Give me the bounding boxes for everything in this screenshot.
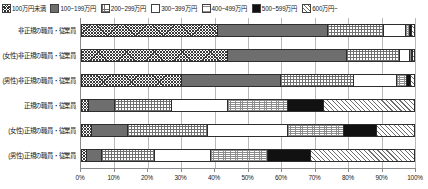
bar-segment[interactable] bbox=[82, 25, 218, 36]
stacked-bar[interactable] bbox=[81, 99, 415, 112]
legend-item-label: 600万円~ bbox=[312, 5, 337, 12]
legend-item[interactable]: 100~199万円 bbox=[50, 4, 95, 13]
bar-segment[interactable] bbox=[397, 75, 406, 86]
grid-swatch-icon bbox=[101, 4, 110, 13]
stacked-bar[interactable] bbox=[81, 24, 415, 37]
x-tick-label: 20% bbox=[141, 174, 153, 182]
stacked-bar[interactable] bbox=[81, 49, 415, 62]
bar-segment[interactable] bbox=[87, 150, 102, 161]
bar-segment[interactable] bbox=[115, 100, 171, 111]
bar-segment[interactable] bbox=[354, 75, 397, 86]
x-tick-label: 60% bbox=[275, 174, 287, 182]
legend-item-label: 100~199万円 bbox=[60, 5, 95, 12]
bar-segment[interactable] bbox=[347, 50, 400, 61]
bar-segment[interactable] bbox=[288, 125, 344, 136]
bar-row bbox=[81, 74, 415, 87]
x-tick-label: 50% bbox=[241, 174, 253, 182]
x-tick-label: 70% bbox=[308, 174, 320, 182]
axis-tick bbox=[181, 168, 182, 172]
bar-segment[interactable] bbox=[412, 25, 414, 36]
legend-item[interactable]: 600万円~ bbox=[302, 4, 337, 13]
axis-tick bbox=[80, 168, 81, 172]
category-label: (男性)非正規の職員・従業員 bbox=[3, 77, 76, 85]
bar-segment[interactable] bbox=[377, 125, 414, 136]
legend-item-label: 100万円未満 bbox=[12, 5, 45, 12]
crosshatch-swatch-icon bbox=[2, 4, 11, 13]
bar-segment[interactable] bbox=[281, 75, 354, 86]
bar-segment[interactable] bbox=[288, 100, 325, 111]
bar-segment[interactable] bbox=[82, 75, 182, 86]
bar-segment[interactable] bbox=[82, 125, 92, 136]
plot-area bbox=[80, 18, 415, 168]
bar-segment[interactable] bbox=[172, 100, 228, 111]
x-tick-label: 10% bbox=[107, 174, 119, 182]
x-tick-label: 0% bbox=[76, 174, 85, 182]
x-axis-ticks bbox=[80, 168, 415, 173]
category-axis-labels: 非正規の職員・従業員(女性)非正規の職員・従業員(男性)非正規の職員・従業員正規… bbox=[0, 18, 78, 168]
stacked-bar-chart: 100万円未満100~199万円200~299万円300~399万円400~49… bbox=[0, 0, 428, 189]
black-swatch-icon bbox=[252, 4, 261, 13]
stacked-bar[interactable] bbox=[81, 124, 415, 137]
bar-segment[interactable] bbox=[102, 150, 155, 161]
bar-segment[interactable] bbox=[182, 75, 282, 86]
axis-tick bbox=[315, 168, 316, 172]
white-swatch-icon bbox=[151, 4, 160, 13]
bar-segment[interactable] bbox=[82, 50, 228, 61]
bar-segment[interactable] bbox=[413, 50, 414, 61]
x-tick-label: 40% bbox=[208, 174, 220, 182]
solid-gray-swatch-icon bbox=[50, 4, 59, 13]
axis-tick bbox=[147, 168, 148, 172]
axis-tick bbox=[348, 168, 349, 172]
x-axis-tick-labels: 0%10%20%30%40%50%60%70%80%90%100% bbox=[0, 174, 428, 186]
x-tick-label: 100% bbox=[407, 174, 423, 182]
bar-segment[interactable] bbox=[324, 100, 414, 111]
bar-segment[interactable] bbox=[411, 75, 414, 86]
category-label: (男性)正規の職員・従業員 bbox=[8, 152, 76, 160]
bar-row bbox=[81, 24, 415, 37]
category-label: 正規の職員・従業員 bbox=[24, 102, 76, 110]
bar-row bbox=[81, 124, 415, 137]
bar-rows bbox=[81, 18, 415, 168]
bar-row bbox=[81, 49, 415, 62]
legend-item-label: 200~299万円 bbox=[111, 5, 146, 12]
axis-tick bbox=[248, 168, 249, 172]
bar-segment[interactable] bbox=[82, 100, 89, 111]
bar-segment[interactable] bbox=[89, 100, 116, 111]
bar-segment[interactable] bbox=[155, 150, 211, 161]
legend-item-label: 400~499万円 bbox=[212, 5, 247, 12]
bar-segment[interactable] bbox=[268, 150, 311, 161]
legend-item[interactable]: 200~299万円 bbox=[101, 4, 146, 13]
bar-segment[interactable] bbox=[384, 25, 406, 36]
axis-tick bbox=[214, 168, 215, 172]
axis-tick bbox=[114, 168, 115, 172]
bar-segment[interactable] bbox=[128, 125, 208, 136]
diagonal-swatch-icon bbox=[302, 4, 311, 13]
legend-item[interactable]: 100万円未満 bbox=[2, 4, 45, 13]
bar-segment[interactable] bbox=[92, 125, 129, 136]
axis-tick bbox=[281, 168, 282, 172]
bar-segment[interactable] bbox=[211, 150, 267, 161]
category-label: 非正規の職員・従業員 bbox=[18, 27, 76, 35]
bar-segment[interactable] bbox=[228, 50, 347, 61]
bar-segment[interactable] bbox=[328, 25, 384, 36]
axis-tick bbox=[382, 168, 383, 172]
legend-item-label: 500~599万円 bbox=[262, 5, 297, 12]
x-tick-label: 80% bbox=[342, 174, 354, 182]
bar-segment[interactable] bbox=[208, 125, 288, 136]
legend-item[interactable]: 500~599万円 bbox=[252, 4, 297, 13]
bar-segment[interactable] bbox=[228, 100, 288, 111]
gridline bbox=[415, 18, 416, 168]
dots-swatch-icon bbox=[202, 4, 211, 13]
bar-segment[interactable] bbox=[400, 50, 410, 61]
legend-item-label: 300~399万円 bbox=[161, 5, 196, 12]
bar-segment[interactable] bbox=[344, 125, 377, 136]
x-tick-label: 30% bbox=[174, 174, 186, 182]
stacked-bar[interactable] bbox=[81, 74, 415, 87]
bar-row bbox=[81, 99, 415, 112]
legend-item[interactable]: 300~399万円 bbox=[151, 4, 196, 13]
stacked-bar[interactable] bbox=[81, 149, 415, 162]
bar-segment[interactable] bbox=[311, 150, 414, 161]
category-label: (女性)正規の職員・従業員 bbox=[8, 127, 76, 135]
legend-item[interactable]: 400~499万円 bbox=[202, 4, 247, 13]
bar-segment[interactable] bbox=[218, 25, 328, 36]
